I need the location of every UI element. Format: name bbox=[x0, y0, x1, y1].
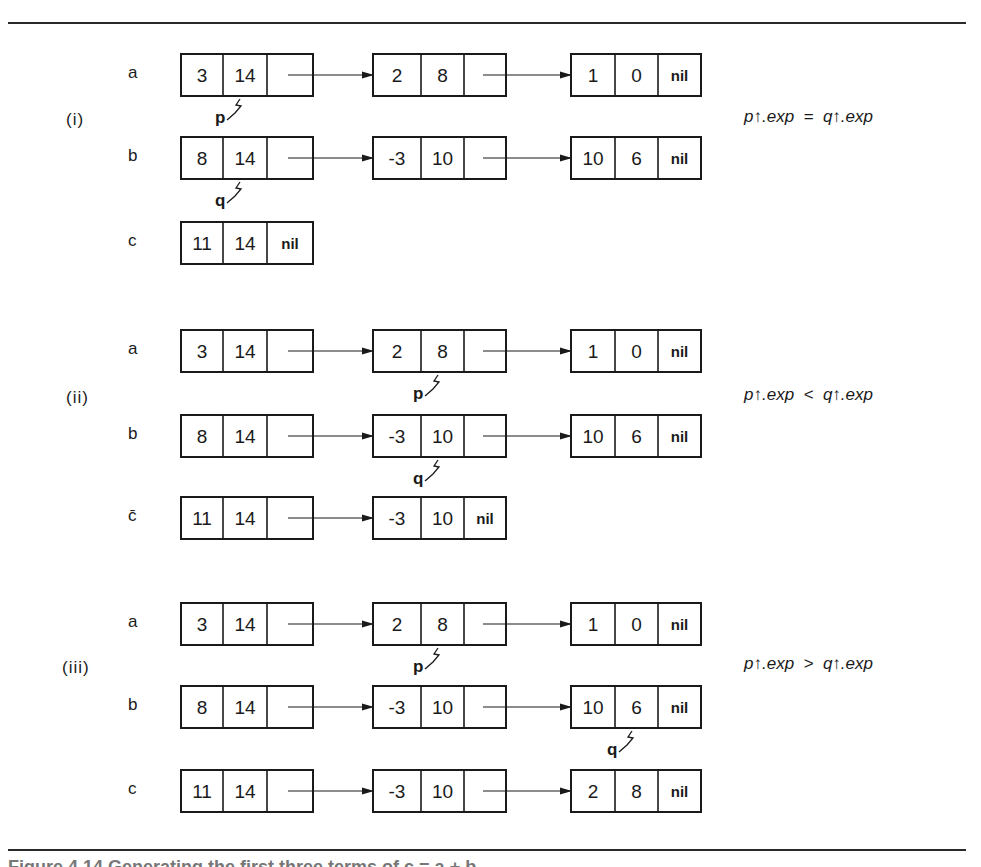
pointer-squiggle-icon bbox=[425, 460, 439, 481]
coef-field: 2 bbox=[392, 614, 403, 635]
q-pointer: q bbox=[413, 460, 439, 488]
list-node: 10nil bbox=[571, 54, 701, 96]
link-field: nil bbox=[281, 235, 299, 252]
linked-list-row: 1114nil bbox=[181, 222, 313, 264]
coef-field: 11 bbox=[192, 781, 212, 802]
pointer-squiggle-icon bbox=[425, 648, 439, 669]
exp-field: 6 bbox=[631, 426, 642, 447]
exp-field: 6 bbox=[631, 148, 642, 169]
p-pointer: p bbox=[215, 99, 241, 127]
pointer-name: p bbox=[413, 657, 423, 676]
coef-field: 1 bbox=[588, 341, 599, 362]
coef-field: 3 bbox=[197, 65, 208, 86]
exp-field: 8 bbox=[437, 614, 448, 635]
pointer-name: q bbox=[215, 191, 225, 210]
comparison-condition: p↑.exp > q↑.exp bbox=[744, 654, 873, 674]
exp-field: 10 bbox=[432, 697, 453, 718]
list-node: 28nil bbox=[571, 770, 701, 812]
exp-field: 10 bbox=[432, 426, 453, 447]
list-name-label: c bbox=[128, 231, 137, 251]
linked-list-row: 814-310106nil bbox=[181, 686, 701, 728]
exp-field: 0 bbox=[631, 341, 642, 362]
link-field: nil bbox=[671, 150, 689, 167]
list-name-label: b bbox=[128, 695, 137, 715]
exp-field: 14 bbox=[234, 341, 256, 362]
coef-field: 8 bbox=[197, 148, 208, 169]
figure-caption: Figure 4.14 Generating the first three t… bbox=[8, 858, 476, 867]
coef-field: -3 bbox=[389, 781, 406, 802]
comparison-condition: p↑.exp < q↑.exp bbox=[744, 385, 873, 405]
exp-field: 10 bbox=[432, 781, 453, 802]
exp-field: 8 bbox=[631, 781, 642, 802]
coef-field: 8 bbox=[197, 697, 208, 718]
coef-field: 2 bbox=[392, 65, 403, 86]
exp-field: 8 bbox=[437, 65, 448, 86]
linked-list-row: 3142810nil bbox=[181, 603, 701, 645]
list-name-label: a bbox=[128, 339, 137, 359]
list-node: -310nil bbox=[373, 497, 506, 539]
coef-field: 3 bbox=[197, 341, 208, 362]
pointer-squiggle-icon bbox=[227, 99, 241, 120]
list-name-label: b bbox=[128, 424, 137, 444]
exp-field: 10 bbox=[432, 148, 453, 169]
section-label: (i) bbox=[66, 110, 84, 130]
list-node: 10nil bbox=[571, 330, 701, 372]
coef-field: -3 bbox=[389, 148, 406, 169]
p-pointer: p bbox=[413, 648, 439, 676]
link-field: nil bbox=[671, 343, 689, 360]
coef-field: 10 bbox=[582, 426, 603, 447]
section-1: 3142810nil814-310106nil1114nilpq bbox=[181, 54, 701, 264]
linked-list-row: 814-310106nil bbox=[181, 415, 701, 457]
pointer-name: q bbox=[413, 469, 423, 488]
exp-field: 14 bbox=[234, 426, 256, 447]
pointer-squiggle-icon bbox=[425, 375, 439, 396]
link-field: nil bbox=[671, 616, 689, 633]
coef-field: -3 bbox=[389, 508, 406, 529]
coef-field: 8 bbox=[197, 426, 208, 447]
list-name-label: b bbox=[128, 146, 137, 166]
exp-field: 8 bbox=[437, 341, 448, 362]
q-pointer: q bbox=[215, 182, 241, 210]
coef-field: 1 bbox=[588, 614, 599, 635]
list-name-label: c̄ bbox=[128, 506, 137, 526]
pointer-name: q bbox=[607, 740, 617, 759]
linked-list-row: 3142810nil bbox=[181, 330, 701, 372]
coef-field: 2 bbox=[588, 781, 599, 802]
linked-list-row: 1114-310nil bbox=[181, 497, 506, 539]
section-label: (ii) bbox=[66, 388, 89, 408]
exp-field: 14 bbox=[234, 614, 256, 635]
link-field: nil bbox=[671, 783, 689, 800]
exp-field: 14 bbox=[234, 781, 256, 802]
pointer-squiggle-icon bbox=[227, 182, 241, 203]
section-label: (iii) bbox=[62, 658, 90, 678]
list-name-label: c bbox=[128, 779, 137, 799]
list-node: 1114nil bbox=[181, 222, 313, 264]
linked-list-diagram: 3142810nil814-310106nil1114nilpq3142810n… bbox=[0, 0, 981, 867]
pointer-name: p bbox=[215, 108, 225, 127]
exp-field: 14 bbox=[234, 508, 256, 529]
exp-field: 6 bbox=[631, 697, 642, 718]
exp-field: 14 bbox=[234, 233, 256, 254]
coef-field: 10 bbox=[582, 148, 603, 169]
coef-field: -3 bbox=[389, 426, 406, 447]
exp-field: 10 bbox=[432, 508, 453, 529]
link-field: nil bbox=[671, 428, 689, 445]
pointer-squiggle-icon bbox=[619, 731, 633, 752]
list-name-label: a bbox=[128, 612, 137, 632]
linked-list-row: 814-310106nil bbox=[181, 137, 701, 179]
exp-field: 14 bbox=[234, 697, 256, 718]
list-name-label: a bbox=[128, 63, 137, 83]
exp-field: 14 bbox=[234, 148, 256, 169]
link-field: nil bbox=[671, 699, 689, 716]
coef-field: -3 bbox=[389, 697, 406, 718]
link-field: nil bbox=[476, 510, 494, 527]
coef-field: 10 bbox=[582, 697, 603, 718]
list-node: 106nil bbox=[571, 686, 701, 728]
list-node: 10nil bbox=[571, 603, 701, 645]
coef-field: 3 bbox=[197, 614, 208, 635]
link-field: nil bbox=[671, 67, 689, 84]
exp-field: 14 bbox=[234, 65, 256, 86]
q-pointer: q bbox=[607, 731, 633, 759]
exp-field: 0 bbox=[631, 65, 642, 86]
list-node: 106nil bbox=[571, 137, 701, 179]
